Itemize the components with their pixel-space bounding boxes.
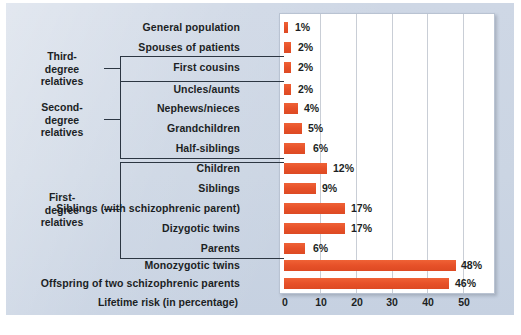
bar-value-label: 48% [461,256,482,275]
table-row: First cousins 2% [0,58,521,77]
table-row: Siblings (with schizophrenic parent) 17% [0,199,521,218]
x-axis-tick-0: 0 [282,296,288,308]
bar-value-label: 2% [298,58,313,77]
x-axis-tick-20: 20 [351,296,363,308]
bar-dizygotic-twins [284,223,345,234]
bar-value-label: 17% [351,199,372,218]
bar-general-population [284,22,288,33]
bar-nephews-nieces [284,103,298,114]
row-label: General population [143,18,240,37]
row-label: Half-siblings [176,139,240,158]
row-label: Spouses of patients [138,38,240,57]
row-label: Siblings [198,179,240,198]
row-label: Children [197,159,240,178]
table-row: Half-siblings 6% [0,139,521,158]
x-axis-tick-50: 50 [458,296,470,308]
chart-figure: Third- degree relatives Second- degree r… [0,0,521,335]
bar-value-label: 1% [295,18,310,37]
table-row: Grandchildren 5% [0,119,521,138]
bar-half-siblings [284,143,305,154]
bar-siblings-with-schizophrenic-parent [284,203,345,214]
table-row: Monozygotic twins 48% [0,256,521,275]
row-label: Monozygotic twins [144,256,240,275]
bar-uncles-aunts [284,84,291,95]
bar-spouses-of-patients [284,42,291,53]
row-label: Nephews/nieces [157,99,240,118]
bar-value-label: 9% [322,179,337,198]
row-label: Offspring of two schizophrenic parents [41,274,240,293]
table-row: Nephews/nieces 4% [0,99,521,118]
table-row: Uncles/aunts 2% [0,80,521,99]
bar-offspring-of-two-schizophrenic-parents [284,278,449,289]
bar-parents [284,243,305,254]
bar-rows: General population 1% Spouses of patient… [0,0,521,335]
bar-children [284,163,327,174]
bar-value-label: 2% [298,38,313,57]
x-axis-tick-40: 40 [422,296,434,308]
bar-value-label: 2% [298,80,313,99]
row-label: Dizygotic twins [162,219,240,238]
bar-siblings [284,183,316,194]
bar-value-label: 17% [351,219,372,238]
bar-value-label: 5% [308,119,323,138]
table-row: Siblings 9% [0,179,521,198]
row-label: Uncles/aunts [173,80,240,99]
x-axis: Lifetime risk (in percentage) 0 10 20 30… [0,294,521,316]
bar-value-label: 4% [304,99,319,118]
bar-first-cousins [284,62,291,73]
x-axis-title: Lifetime risk (in percentage) [98,296,238,308]
table-row: Offspring of two schizophrenic parents 4… [0,274,521,293]
bar-monozygotic-twins [284,260,456,271]
row-label: First cousins [173,58,240,77]
table-row: Spouses of patients 2% [0,38,521,57]
table-row: General population 1% [0,18,521,37]
x-axis-tick-10: 10 [315,296,327,308]
bar-value-label: 46% [455,274,476,293]
row-label: Grandchildren [167,119,240,138]
x-axis-tick-30: 30 [386,296,398,308]
row-label: Siblings (with schizophrenic parent) [56,199,240,218]
table-row: Children 12% [0,159,521,178]
bar-grandchildren [284,123,302,134]
bar-value-label: 6% [313,139,328,158]
bar-value-label: 12% [333,159,354,178]
table-row: Dizygotic twins 17% [0,219,521,238]
